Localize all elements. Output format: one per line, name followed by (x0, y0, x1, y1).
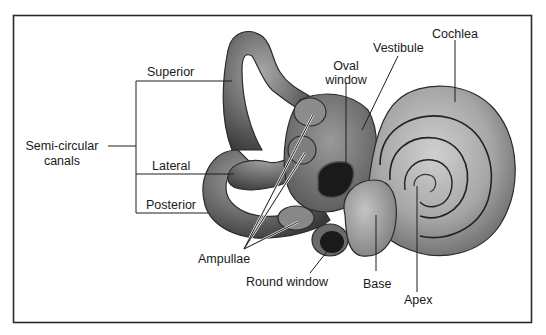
label-semicircular-canals: Semi-circular (26, 139, 99, 153)
label-lateral: Lateral (152, 159, 190, 173)
label-ampullae: Ampullae (198, 252, 250, 266)
ampulla-posterior (278, 206, 314, 230)
label-vestibule: Vestibule (373, 41, 424, 55)
label-oval-window-line2: window (324, 73, 368, 87)
label-apex: Apex (404, 293, 433, 307)
label-superior: Superior (147, 65, 194, 79)
label-cochlea: Cochlea (432, 27, 478, 41)
label-oval-window: Oval (333, 59, 359, 73)
label-semicircular-canals-line2: canals (44, 154, 80, 168)
label-base: Base (363, 277, 392, 291)
cochlea-base (344, 180, 396, 256)
label-posterior: Posterior (146, 198, 196, 212)
label-round-window: Round window (246, 275, 329, 289)
round-window (312, 224, 348, 256)
inner-ear-diagram: Semi-circular canals Superior Lateral Po… (0, 0, 546, 335)
